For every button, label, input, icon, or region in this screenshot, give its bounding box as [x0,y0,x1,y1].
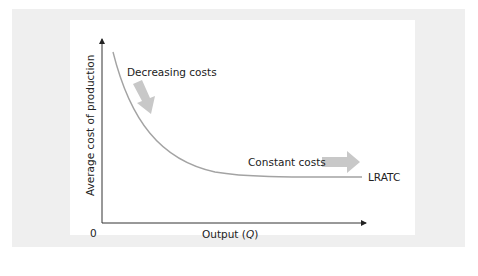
lratc-label: LRATC [368,171,400,183]
constant-costs-label: Constant costs [248,156,326,168]
lratc-chart: Decreasing costs Constant costs LRATC 0 … [0,0,478,276]
x-axis-label: Output (Q) [202,228,258,240]
decreasing-arrow-icon [133,80,155,114]
origin-label: 0 [90,227,97,239]
decreasing-costs-label: Decreasing costs [127,66,217,78]
constant-arrow-icon [322,151,360,173]
y-axis-label: Average cost of production [84,55,96,196]
